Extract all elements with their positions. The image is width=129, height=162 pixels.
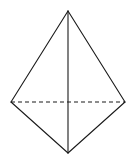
edge-top-right [68,11,125,102]
tetrahedron-diagram [0,0,129,162]
edge-top-left [11,11,68,102]
edge-right-bottom [68,102,125,153]
edge-left-bottom [11,102,68,153]
